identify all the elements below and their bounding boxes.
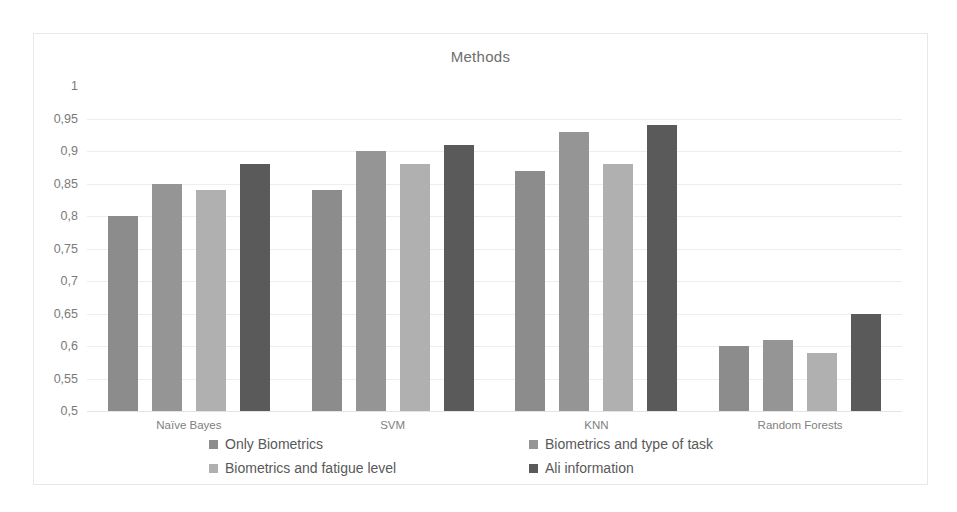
y-axis-tick-label: 0,55 <box>54 372 78 386</box>
bar[interactable] <box>603 164 633 411</box>
bars <box>87 86 291 411</box>
x-axis-category-label: KNN <box>495 419 699 431</box>
legend-item[interactable]: Biometrics and fatigue level <box>209 460 529 476</box>
bar[interactable] <box>152 184 182 412</box>
y-axis-tick-label: 1 <box>71 79 78 93</box>
bars <box>495 86 699 411</box>
bar[interactable] <box>763 340 793 412</box>
bar[interactable] <box>444 145 474 412</box>
bar[interactable] <box>400 164 430 411</box>
y-axis-tick-label: 0,6 <box>61 339 78 353</box>
bar-group: Naïve Bayes <box>87 86 291 411</box>
y-axis-tick-label: 0,7 <box>61 274 78 288</box>
bar[interactable] <box>807 353 837 412</box>
y-axis-tick-label: 0,5 <box>61 404 78 418</box>
bar-group: SVM <box>291 86 495 411</box>
bar[interactable] <box>559 132 589 412</box>
y-axis-tick-label: 0,95 <box>54 112 78 126</box>
y-axis-tick-label: 0,75 <box>54 242 78 256</box>
x-axis-category-label: Naïve Bayes <box>87 419 291 431</box>
legend-item[interactable]: Biometrics and type of task <box>529 436 849 452</box>
legend-label: Only Biometrics <box>225 436 323 452</box>
x-axis-category-label: Random Forests <box>698 419 902 431</box>
legend-swatch-icon <box>209 464 218 473</box>
bar[interactable] <box>240 164 270 411</box>
y-axis-tick-label: 0,65 <box>54 307 78 321</box>
legend-swatch-icon <box>209 440 218 449</box>
bar-group: KNN <box>495 86 699 411</box>
legend-label: Biometrics and type of task <box>545 436 713 452</box>
bar[interactable] <box>196 190 226 411</box>
legend-label: Biometrics and fatigue level <box>225 460 396 476</box>
legend-label: Ali information <box>545 460 634 476</box>
gridline <box>87 411 902 412</box>
legend-swatch-icon <box>529 464 538 473</box>
y-axis-tick-label: 0,8 <box>61 209 78 223</box>
chart-title: Methods <box>34 48 927 65</box>
bar-group: Random Forests <box>698 86 902 411</box>
legend-item[interactable]: Ali information <box>529 460 849 476</box>
bar[interactable] <box>851 314 881 412</box>
y-axis-tick-label: 0,85 <box>54 177 78 191</box>
bar[interactable] <box>356 151 386 411</box>
bars <box>698 86 902 411</box>
legend-swatch-icon <box>529 440 538 449</box>
chart-container: Methods 10,950,90,850,80,750,70,650,60,5… <box>33 33 928 485</box>
bars <box>291 86 495 411</box>
x-axis-category-label: SVM <box>291 419 495 431</box>
bar[interactable] <box>719 346 749 411</box>
chart-legend: Only BiometricsBiometrics and type of ta… <box>209 432 909 480</box>
bar[interactable] <box>647 125 677 411</box>
legend-item[interactable]: Only Biometrics <box>209 436 529 452</box>
bar[interactable] <box>108 216 138 411</box>
y-axis-tick-label: 0,9 <box>61 144 78 158</box>
plot-area: 10,950,90,850,80,750,70,650,60,550,5 Naï… <box>87 86 902 411</box>
bar[interactable] <box>312 190 342 411</box>
bar[interactable] <box>515 171 545 412</box>
